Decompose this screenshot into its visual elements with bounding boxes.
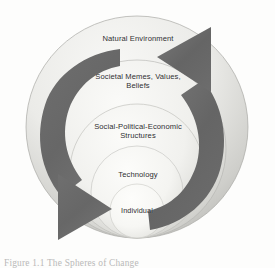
figure-caption: Figure 1.1 The Spheres of Change <box>4 258 234 268</box>
nested-systems-diagram <box>0 0 275 268</box>
figure-container: Natural Environment Societal Memes, Valu… <box>0 0 275 268</box>
